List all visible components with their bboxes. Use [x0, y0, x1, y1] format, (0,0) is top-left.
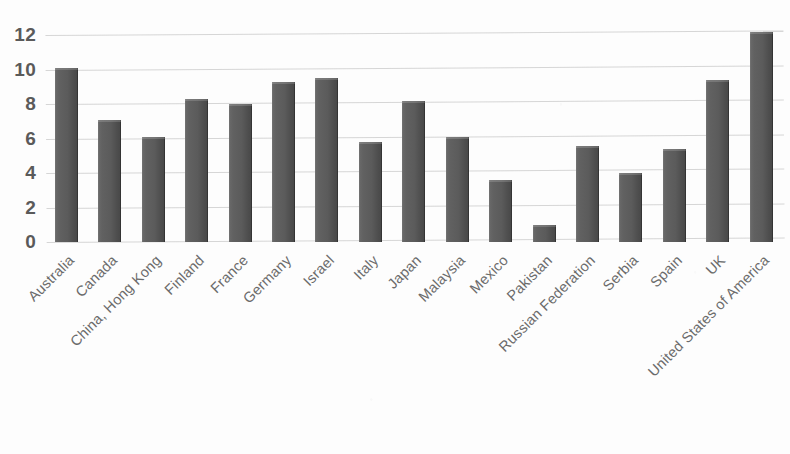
bar-slot [46, 18, 89, 242]
x-tick-label: Israel [301, 252, 338, 289]
x-tick: Canada [89, 246, 132, 247]
x-tick: France [220, 246, 263, 247]
x-tick: Australia [46, 246, 89, 247]
bar-slot [306, 18, 349, 242]
x-tick: UK [697, 246, 740, 247]
bar-slot [220, 18, 263, 242]
bar-slot [89, 18, 132, 242]
bar[interactable] [576, 146, 599, 242]
bar-slot [524, 18, 567, 242]
x-tick-label: UK [703, 252, 729, 278]
x-tick-label: Japan [385, 252, 425, 292]
bar-slot [741, 18, 784, 242]
y-tick-label: 2 [25, 197, 36, 219]
bar[interactable] [229, 104, 252, 242]
bar-slot [176, 18, 219, 242]
bar[interactable] [272, 82, 295, 242]
bar[interactable] [619, 173, 642, 242]
x-tick: United States of America [741, 246, 784, 247]
bar[interactable] [750, 32, 773, 242]
x-tick: Pakistan [524, 246, 567, 247]
y-axis: 024681012 [0, 0, 44, 454]
bar[interactable] [359, 142, 382, 242]
bar[interactable] [55, 68, 78, 242]
plot-area [46, 18, 784, 242]
bar[interactable] [706, 80, 729, 242]
x-tick: Mexico [480, 246, 523, 247]
x-tick: Italy [350, 246, 393, 247]
bar-slot [697, 18, 740, 242]
bar[interactable] [489, 180, 512, 242]
y-tick-label: 4 [25, 162, 36, 184]
y-tick-label: 10 [14, 59, 36, 81]
bar[interactable] [402, 101, 425, 242]
bar-slot [133, 18, 176, 242]
x-tick: Germany [263, 246, 306, 247]
x-tick-label: Malaysia [415, 252, 468, 305]
bar-chart-figure: 024681012 AustraliaCanadaChina, Hong Kon… [0, 0, 790, 454]
bar[interactable] [142, 137, 165, 242]
bar-slot [480, 18, 523, 242]
x-tick: Serbia [610, 246, 653, 247]
x-tick: Israel [306, 246, 349, 247]
bar-slot [393, 18, 436, 242]
y-tick-label: 8 [25, 93, 36, 115]
bar-slot [350, 18, 393, 242]
bar-slot [437, 18, 480, 242]
x-tick-label: Italy [350, 252, 381, 283]
bar[interactable] [315, 78, 338, 242]
x-tick-label: Serbia [600, 252, 642, 294]
x-tick: China, Hong Kong [133, 246, 176, 247]
bar-slot [654, 18, 697, 242]
bar[interactable] [663, 149, 686, 242]
x-tick-label: Finland [162, 252, 208, 298]
bars-layer [46, 18, 784, 242]
x-tick: Japan [393, 246, 436, 247]
x-tick: Spain [654, 246, 697, 247]
x-tick-label: Spain [647, 252, 685, 290]
y-tick-label: 6 [25, 128, 36, 150]
bar[interactable] [98, 120, 121, 242]
bar[interactable] [185, 99, 208, 242]
y-tick-label: 12 [14, 24, 36, 46]
x-tick: Finland [176, 246, 219, 247]
bar-slot [567, 18, 610, 242]
x-tick: Russian Federation [567, 246, 610, 247]
x-tick: Malaysia [437, 246, 480, 247]
x-axis: AustraliaCanadaChina, Hong KongFinlandFr… [46, 246, 784, 446]
bar[interactable] [533, 225, 556, 242]
bar[interactable] [446, 137, 469, 242]
bar-slot [610, 18, 653, 242]
y-tick-label: 0 [25, 231, 36, 253]
bar-slot [263, 18, 306, 242]
